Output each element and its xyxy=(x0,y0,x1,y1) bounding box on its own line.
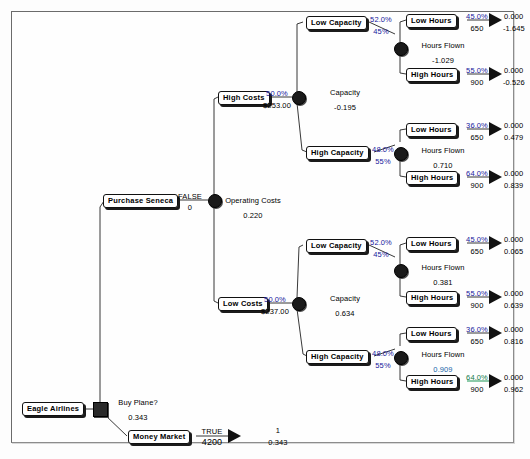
purchase-seneca-flag: FALSE xyxy=(178,192,202,201)
node-high-hours-3[interactable]: High Hours xyxy=(406,291,458,305)
node-high-capacity-1[interactable]: High Capacity xyxy=(306,146,369,160)
high-hours-1-end-top: 0.000 xyxy=(504,66,523,75)
low-hours-2-label: Low Hours xyxy=(411,125,452,134)
endpoint-triangle-money-market xyxy=(228,429,241,443)
low-hours-3-probability: 45.0% xyxy=(466,235,488,244)
node-low-hours-2[interactable]: Low Hours xyxy=(406,123,457,137)
high-hours-4-payoff: 900 xyxy=(471,385,484,394)
purchase-seneca-payoff: 0 xyxy=(188,203,192,212)
chance-node-capacity-high-costs[interactable] xyxy=(292,91,306,105)
chance-node-hours-flown-1[interactable] xyxy=(394,42,408,56)
hours-flown-3-value: 0.381 xyxy=(433,278,452,287)
hours-flown-4-value: 0.909 xyxy=(433,365,452,374)
low-hours-3-label: Low Hours xyxy=(411,239,452,248)
low-hours-1-end-bottom: -1.645 xyxy=(503,24,525,33)
high-hours-2-end-top: 0.000 xyxy=(504,169,523,178)
high-hours-4-end-top: 0.000 xyxy=(504,373,523,382)
high-costs-payoff: $253.00 xyxy=(263,101,291,110)
low-hours-2-end-top: 0.000 xyxy=(504,121,523,130)
endpoint-triangle-5 xyxy=(489,236,502,250)
low-hours-4-probability: 36.0% xyxy=(466,325,488,334)
low-costs-label: Low Costs xyxy=(223,299,263,308)
low-capacity-1-label: Low Capacity xyxy=(311,18,362,27)
high-hours-4-label: High Hours xyxy=(411,377,453,386)
money-market-endpoint-top: 1 xyxy=(276,426,280,435)
low-capacity-2-payoff: 45% xyxy=(373,250,388,259)
hours-flown-1-label: Hours Flown xyxy=(421,41,464,50)
endpoint-triangle-8 xyxy=(489,374,502,388)
hours-flown-4-label: Hours Flown xyxy=(421,350,464,359)
high-capacity-2-payoff: 55% xyxy=(375,361,390,370)
high-capacity-1-payoff: 55% xyxy=(375,157,390,166)
node-low-hours-4[interactable]: Low Hours xyxy=(406,327,457,341)
node-low-hours-1[interactable]: Low Hours xyxy=(406,14,457,28)
diagram-artwork: Eagle Airlines Buy Plane? 0.343 Money Ma… xyxy=(0,0,530,459)
hours-flown-2-label: Hours Flown xyxy=(421,146,464,155)
hours-flown-2-value: 0.710 xyxy=(433,161,452,170)
high-capacity-2-label: High Capacity xyxy=(311,352,364,361)
high-hours-3-end-bottom: 0.639 xyxy=(504,301,523,310)
chance-node-operating-costs[interactable] xyxy=(208,194,222,208)
high-capacity-1-label: High Capacity xyxy=(311,148,364,157)
endpoint-triangle-6 xyxy=(489,290,502,304)
buy-plane-question-label: Buy Plane? xyxy=(118,398,157,407)
high-hours-2-probability: 64.0% xyxy=(466,169,488,178)
hours-flown-1-value: -1.029 xyxy=(432,56,454,65)
endpoint-triangle-2 xyxy=(489,67,502,81)
endpoint-triangle-4 xyxy=(489,170,502,184)
high-hours-2-payoff: 900 xyxy=(471,181,484,190)
money-market-payoff: 4200 xyxy=(202,438,222,447)
high-hours-1-payoff: 900 xyxy=(471,78,484,87)
money-market-flag: TRUE xyxy=(202,427,223,436)
node-money-market[interactable]: Money Market xyxy=(128,430,190,444)
low-hours-2-payoff: 650 xyxy=(471,133,484,142)
decision-tree-canvas: Eagle Airlines Buy Plane? 0.343 Money Ma… xyxy=(0,0,530,459)
low-hours-1-end-top: 0.000 xyxy=(504,12,523,21)
node-purchase-seneca[interactable]: Purchase Seneca xyxy=(103,194,178,208)
root-node-eagle-airlines[interactable]: Eagle Airlines xyxy=(22,402,84,416)
buy-plane-question-value: 0.343 xyxy=(128,413,147,422)
low-hours-1-probability: 45.0% xyxy=(466,12,488,21)
high-hours-2-label: High Hours xyxy=(411,173,453,182)
low-capacity-2-label: Low Capacity xyxy=(311,241,362,250)
decision-node-square[interactable] xyxy=(93,402,108,417)
capacity-label-low-costs: Capacity xyxy=(330,294,360,303)
capacity-label-high-costs: Capacity xyxy=(330,88,360,97)
high-hours-1-label: High Hours xyxy=(411,70,453,79)
purchase-seneca-label: Purchase Seneca xyxy=(108,196,173,205)
money-market-label: Money Market xyxy=(133,432,185,441)
node-low-hours-3[interactable]: Low Hours xyxy=(406,237,457,251)
low-hours-3-end-top: 0.000 xyxy=(504,235,523,244)
low-hours-4-payoff: 650 xyxy=(471,337,484,346)
high-capacity-2-probability: 48.0% xyxy=(372,349,394,358)
high-capacity-1-probability: 48.0% xyxy=(372,145,394,154)
high-costs-probability: 50.0% xyxy=(266,89,288,98)
node-high-hours-2[interactable]: High Hours xyxy=(406,171,458,185)
low-costs-probability: 50.0% xyxy=(264,295,286,304)
node-low-capacity-1[interactable]: Low Capacity xyxy=(306,16,367,30)
low-hours-1-payoff: 650 xyxy=(471,24,484,33)
low-hours-4-label: Low Hours xyxy=(411,329,452,338)
endpoint-triangle-3 xyxy=(489,122,502,136)
root-node-label: Eagle Airlines xyxy=(27,404,79,413)
low-hours-2-end-bottom: 0.479 xyxy=(504,133,523,142)
chance-node-hours-flown-2[interactable] xyxy=(394,147,408,161)
chance-node-hours-flown-3[interactable] xyxy=(394,264,408,278)
high-hours-3-end-top: 0.000 xyxy=(504,289,523,298)
node-high-capacity-2[interactable]: High Capacity xyxy=(306,350,369,364)
high-hours-1-probability: 55.0% xyxy=(466,66,488,75)
operating-costs-value: 0.220 xyxy=(243,211,262,220)
node-low-capacity-2[interactable]: Low Capacity xyxy=(306,239,367,253)
low-capacity-1-probability: 52.0% xyxy=(370,15,392,24)
chance-node-hours-flown-4[interactable] xyxy=(394,351,408,365)
low-hours-1-label: Low Hours xyxy=(411,16,452,25)
chance-node-capacity-low-costs[interactable] xyxy=(292,297,306,311)
node-high-hours-4[interactable]: High Hours xyxy=(406,375,458,389)
node-high-costs[interactable]: High Costs xyxy=(218,91,270,105)
money-market-endpoint-bottom: 0.343 xyxy=(268,438,287,447)
node-high-hours-1[interactable]: High Hours xyxy=(406,68,458,82)
capacity-value-low-costs: 0.634 xyxy=(335,309,354,318)
high-costs-label: High Costs xyxy=(223,93,265,102)
low-capacity-2-probability: 52.0% xyxy=(370,238,392,247)
high-hours-4-probability: 64.0% xyxy=(466,373,488,382)
